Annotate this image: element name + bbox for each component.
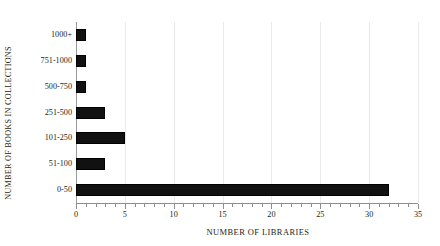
x-tick-30 bbox=[369, 204, 370, 209]
x-tick-label-30: 30 bbox=[365, 210, 373, 219]
x-axis-title: NUMBER OF LIBRARIES bbox=[76, 227, 440, 237]
bar-251-500 bbox=[76, 107, 105, 119]
bar-row bbox=[76, 158, 418, 170]
x-tick-5 bbox=[125, 204, 126, 209]
x-tick-label-0: 0 bbox=[74, 210, 78, 219]
x-tick-21 bbox=[281, 204, 282, 207]
x-tick-12 bbox=[193, 204, 194, 207]
x-tick-32 bbox=[389, 204, 390, 207]
bar-51-100 bbox=[76, 158, 105, 170]
x-tick-19 bbox=[262, 204, 263, 207]
x-tick-27 bbox=[340, 204, 341, 207]
x-tick-11 bbox=[183, 204, 184, 207]
x-tick-14 bbox=[213, 204, 214, 207]
gridline-35 bbox=[418, 22, 419, 203]
x-tick-4 bbox=[115, 204, 116, 207]
x-tick-1 bbox=[86, 204, 87, 207]
x-tick-31 bbox=[379, 204, 380, 207]
x-tick-13 bbox=[203, 204, 204, 207]
x-tick-6 bbox=[135, 204, 136, 207]
x-tick-label-5: 5 bbox=[123, 210, 127, 219]
bar-1000+ bbox=[76, 29, 86, 41]
bar-row bbox=[76, 29, 418, 41]
x-tick-24 bbox=[311, 204, 312, 207]
plot-area bbox=[76, 22, 418, 203]
x-tick-34 bbox=[408, 204, 409, 207]
x-tick-label-15: 15 bbox=[218, 210, 226, 219]
x-tick-28 bbox=[350, 204, 351, 207]
bar-500-750 bbox=[76, 81, 86, 93]
x-tick-29 bbox=[359, 204, 360, 207]
x-tick-26 bbox=[330, 204, 331, 207]
y-tick-label-251-500: 251-500 bbox=[0, 108, 72, 118]
x-tick-18 bbox=[252, 204, 253, 207]
x-tick-2 bbox=[96, 204, 97, 207]
y-tick-label-751-1000: 751-1000 bbox=[0, 56, 72, 66]
x-tick-20 bbox=[271, 204, 272, 209]
x-tick-label-25: 25 bbox=[316, 210, 324, 219]
x-tick-22 bbox=[291, 204, 292, 207]
x-tick-25 bbox=[320, 204, 321, 209]
x-tick-label-35: 35 bbox=[414, 210, 422, 219]
x-tick-33 bbox=[398, 204, 399, 207]
x-tick-0 bbox=[76, 204, 77, 209]
x-tick-10 bbox=[174, 204, 175, 209]
y-axis-tick-labels: 0-5051-100101-250251-500500-750751-10001… bbox=[0, 22, 72, 203]
x-tick-3 bbox=[105, 204, 106, 207]
bar-0-50 bbox=[76, 184, 389, 196]
y-tick-label-1000+: 1000+ bbox=[0, 30, 72, 40]
x-tick-16 bbox=[232, 204, 233, 207]
x-tick-label-20: 20 bbox=[267, 210, 275, 219]
bar-101-250 bbox=[76, 132, 125, 144]
bar-row bbox=[76, 81, 418, 93]
bar-row bbox=[76, 107, 418, 119]
x-tick-17 bbox=[242, 204, 243, 207]
y-tick-label-500-750: 500-750 bbox=[0, 82, 72, 92]
y-tick-label-51-100: 51-100 bbox=[0, 159, 72, 169]
x-tick-9 bbox=[164, 204, 165, 207]
bars-layer bbox=[76, 22, 418, 203]
bar-row bbox=[76, 184, 418, 196]
x-axis-tick-labels: 05101520253035 bbox=[76, 210, 418, 222]
y-tick-label-101-250: 101-250 bbox=[0, 133, 72, 143]
x-tick-15 bbox=[223, 204, 224, 209]
x-tick-8 bbox=[154, 204, 155, 207]
bar-chart: NUMBER OF BOOKS IN COLLECTIONS 0-5051-10… bbox=[0, 0, 440, 246]
x-tick-35 bbox=[418, 204, 419, 209]
x-tick-23 bbox=[301, 204, 302, 207]
y-tick-label-0-50: 0-50 bbox=[0, 185, 72, 195]
bar-751-1000 bbox=[76, 55, 86, 67]
x-tick-label-10: 10 bbox=[170, 210, 178, 219]
bar-row bbox=[76, 55, 418, 67]
x-tick-7 bbox=[144, 204, 145, 207]
bar-row bbox=[76, 132, 418, 144]
